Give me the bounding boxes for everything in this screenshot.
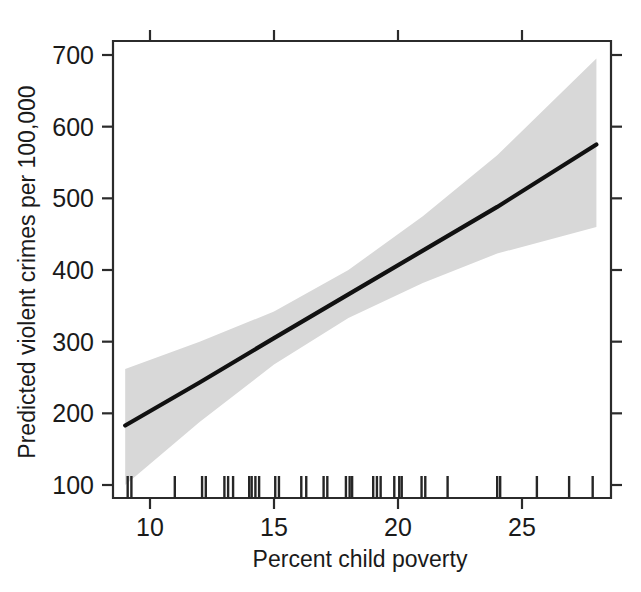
x-tick-label-10: 10	[136, 513, 164, 541]
y-tick-label-600: 600	[52, 113, 94, 141]
scatter-regression-chart: 100200300400500600700 10152025 Percent c…	[0, 0, 641, 592]
x-tick-label-25: 25	[508, 513, 536, 541]
y-tick-label-300: 300	[52, 328, 94, 356]
y-tick-label-400: 400	[52, 256, 94, 284]
y-tick-label-100: 100	[52, 471, 94, 499]
x-tick-label-20: 20	[384, 513, 412, 541]
y-axis-title: Predicted violent crimes per 100,000	[14, 85, 40, 458]
y-tick-label-700: 700	[52, 41, 94, 69]
y-tick-label-200: 200	[52, 399, 94, 427]
x-tick-label-15: 15	[260, 513, 288, 541]
y-tick-label-500: 500	[52, 184, 94, 212]
x-axis-title: Percent child poverty	[253, 546, 468, 572]
figure-container: 100200300400500600700 10152025 Percent c…	[0, 0, 641, 592]
